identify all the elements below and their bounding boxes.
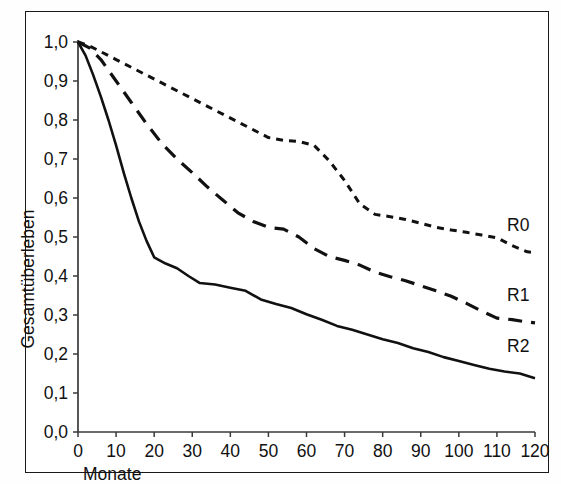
y-tick-label: 0,2 — [44, 344, 68, 364]
axis-lines — [78, 40, 535, 432]
y-tick-label: 0,8 — [44, 110, 68, 130]
curve-r0 — [78, 42, 535, 253]
curve-r1 — [78, 42, 535, 323]
y-tick-label: 0,9 — [44, 71, 68, 91]
x-tick-label: 50 — [259, 441, 279, 461]
y-tick-label: 0,4 — [44, 266, 69, 286]
survival-chart: 0,00,10,20,30,40,50,60,70,80,91,00102030… — [0, 0, 561, 484]
curve-r2 — [78, 42, 535, 378]
x-tick-label: 30 — [183, 441, 203, 461]
x-tick-label: 10 — [106, 441, 126, 461]
x-tick-label: 100 — [444, 441, 473, 461]
x-tick-label: 40 — [221, 441, 241, 461]
figure-container: 0,00,10,20,30,40,50,60,70,80,91,00102030… — [0, 0, 561, 484]
y-tick-label: 0,6 — [44, 188, 68, 208]
y-tick-label: 0,5 — [44, 227, 68, 247]
x-tick-label: 20 — [144, 441, 164, 461]
x-tick-label: 90 — [411, 441, 431, 461]
y-tick-label: 0,0 — [44, 422, 69, 442]
y-tick-label: 0,1 — [44, 383, 68, 403]
y-tick-label: 1,0 — [44, 32, 69, 52]
x-tick-label: 110 — [483, 441, 511, 461]
x-axis-title: Monate — [83, 464, 141, 484]
series-label-r0: R0 — [507, 215, 530, 235]
y-tick-label: 0,7 — [44, 149, 68, 169]
x-tick-label: 0 — [73, 441, 83, 461]
x-tick-label: 120 — [520, 441, 549, 461]
y-axis-title: Gesamtüberleben — [18, 209, 38, 348]
x-tick-label: 60 — [297, 441, 317, 461]
series-label-r1: R1 — [507, 285, 529, 305]
x-tick-label: 80 — [373, 441, 393, 461]
y-tick-label: 0,3 — [44, 305, 68, 325]
series-label-r2: R2 — [507, 336, 529, 356]
x-tick-label: 70 — [335, 441, 355, 461]
